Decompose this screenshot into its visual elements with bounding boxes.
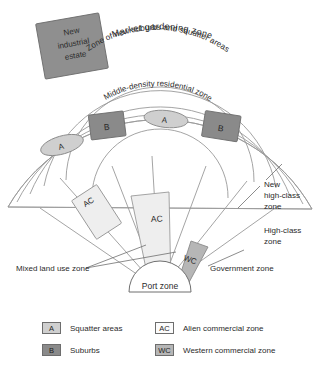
diagram-svg: AC WC AC A A B B Ne	[0, 0, 319, 318]
legend-label-western-commercial: Western commercial zone	[183, 346, 275, 355]
legend-item-alien-commercial: AC Alien commercial zone	[155, 322, 263, 334]
new-high-class-zone-line2: high-class	[264, 191, 300, 200]
new-suburbs-zone-label: Zone of new suburbs and squatter areas	[85, 23, 231, 54]
new-high-class-zone-line3: zone	[264, 202, 282, 211]
legend-swatch-squatter: A	[42, 322, 61, 334]
high-class-zone-line1: High-class	[264, 226, 301, 235]
port-zone-label: Port zone	[142, 281, 179, 291]
legend-item-western-commercial: WC Western commercial zone	[155, 344, 275, 356]
urban-land-use-diagram: AC WC AC A A B B Ne	[0, 0, 319, 368]
high-class-zone-line2: zone	[264, 237, 282, 246]
mixed-land-use-zone-label: Mixed land use zone	[16, 264, 90, 273]
legend-label-squatter: Squatter areas	[70, 324, 122, 333]
alien-commercial-wedge-label: AC	[151, 213, 163, 224]
legend: A Squatter areas B Suburbs AC Alien comm…	[0, 318, 319, 368]
government-zone-label: Government zone	[210, 264, 274, 273]
legend-swatch-western-commercial: WC	[155, 344, 174, 356]
legend-label-suburbs: Suburbs	[70, 346, 100, 355]
legend-swatch-alien-commercial: AC	[155, 322, 174, 334]
legend-item-squatter: A Squatter areas	[42, 322, 122, 334]
legend-swatch-suburbs: B	[42, 344, 61, 356]
legend-item-suburbs: B Suburbs	[42, 344, 100, 356]
legend-label-alien-commercial: Alien commercial zone	[183, 324, 263, 333]
middle-density-zone-label: Middle-density residential zone	[102, 79, 214, 103]
high-class-zone-label: High-class zone	[264, 226, 301, 246]
new-high-class-zone-line1: New	[264, 180, 280, 189]
